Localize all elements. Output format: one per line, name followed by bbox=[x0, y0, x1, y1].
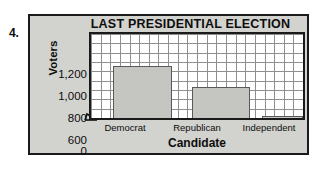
y-axis-tick-labels: 1,200 1,000 800 600 0 bbox=[44, 32, 87, 122]
plot-area bbox=[89, 32, 305, 120]
y-axis-tick-0: 0 bbox=[81, 146, 87, 158]
question-number: 4. bbox=[9, 26, 19, 40]
x-axis-label-independent: Independent bbox=[233, 122, 305, 136]
bar-republican bbox=[192, 87, 250, 119]
worksheet-figure: 4. LAST PRESIDENTIAL ELECTION Voters 1,2… bbox=[0, 0, 331, 170]
y-axis-tick-1000: 1,000 bbox=[58, 91, 87, 103]
chart-title: LAST PRESIDENTIAL ELECTION bbox=[75, 17, 306, 31]
x-axis-label-democrat: Democrat bbox=[89, 122, 161, 136]
bar-democrat bbox=[113, 66, 171, 119]
y-axis-tick-1200: 1,200 bbox=[58, 69, 87, 81]
x-axis-label-republican: Republican bbox=[161, 122, 233, 136]
bar-series bbox=[91, 34, 303, 118]
x-axis-tick-labels: Democrat Republican Independent bbox=[89, 122, 305, 136]
x-axis-title: Candidate bbox=[89, 136, 305, 150]
bar-independent bbox=[262, 116, 303, 118]
